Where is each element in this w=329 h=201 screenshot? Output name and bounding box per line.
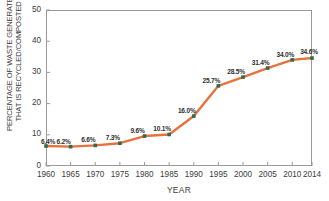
data-point-marker [266, 66, 270, 70]
data-point-label: 31.4% [246, 59, 276, 66]
y-axis-tick-label: 40 [21, 36, 41, 45]
data-point-label: 25.7% [196, 77, 226, 84]
data-point-label: 28.5% [221, 68, 251, 75]
data-point-label: 16.0% [172, 107, 202, 114]
x-axis-title: YEAR [46, 185, 312, 195]
data-point-label: 10.1% [147, 125, 177, 132]
y-axis-tick-label: 20 [21, 98, 41, 107]
data-point-marker [310, 56, 314, 60]
y-axis-tick-label: 10 [21, 129, 41, 138]
data-point-marker [69, 145, 73, 149]
x-axis-tick-label: 2014 [297, 170, 327, 179]
data-point-marker [217, 84, 221, 88]
data-point-marker [241, 75, 245, 79]
data-point-label: 7.3% [98, 134, 128, 141]
recycling-rate-line-chart: PERCENTAGE OF WASTE GENERATED THAT IS RE… [0, 0, 329, 201]
data-point-marker [118, 141, 122, 145]
y-axis-tick-label: 0 [21, 161, 41, 170]
data-point-markers [44, 56, 314, 148]
data-point-label: 34.6% [294, 48, 324, 55]
data-point-marker [291, 58, 295, 62]
data-point-marker [93, 144, 97, 148]
data-line [46, 58, 312, 147]
data-point-marker [192, 114, 196, 118]
y-axis-tick-label: 30 [21, 67, 41, 76]
data-point-marker [167, 133, 171, 137]
y-axis-tick-label: 50 [21, 5, 41, 14]
data-point-marker [143, 134, 147, 138]
